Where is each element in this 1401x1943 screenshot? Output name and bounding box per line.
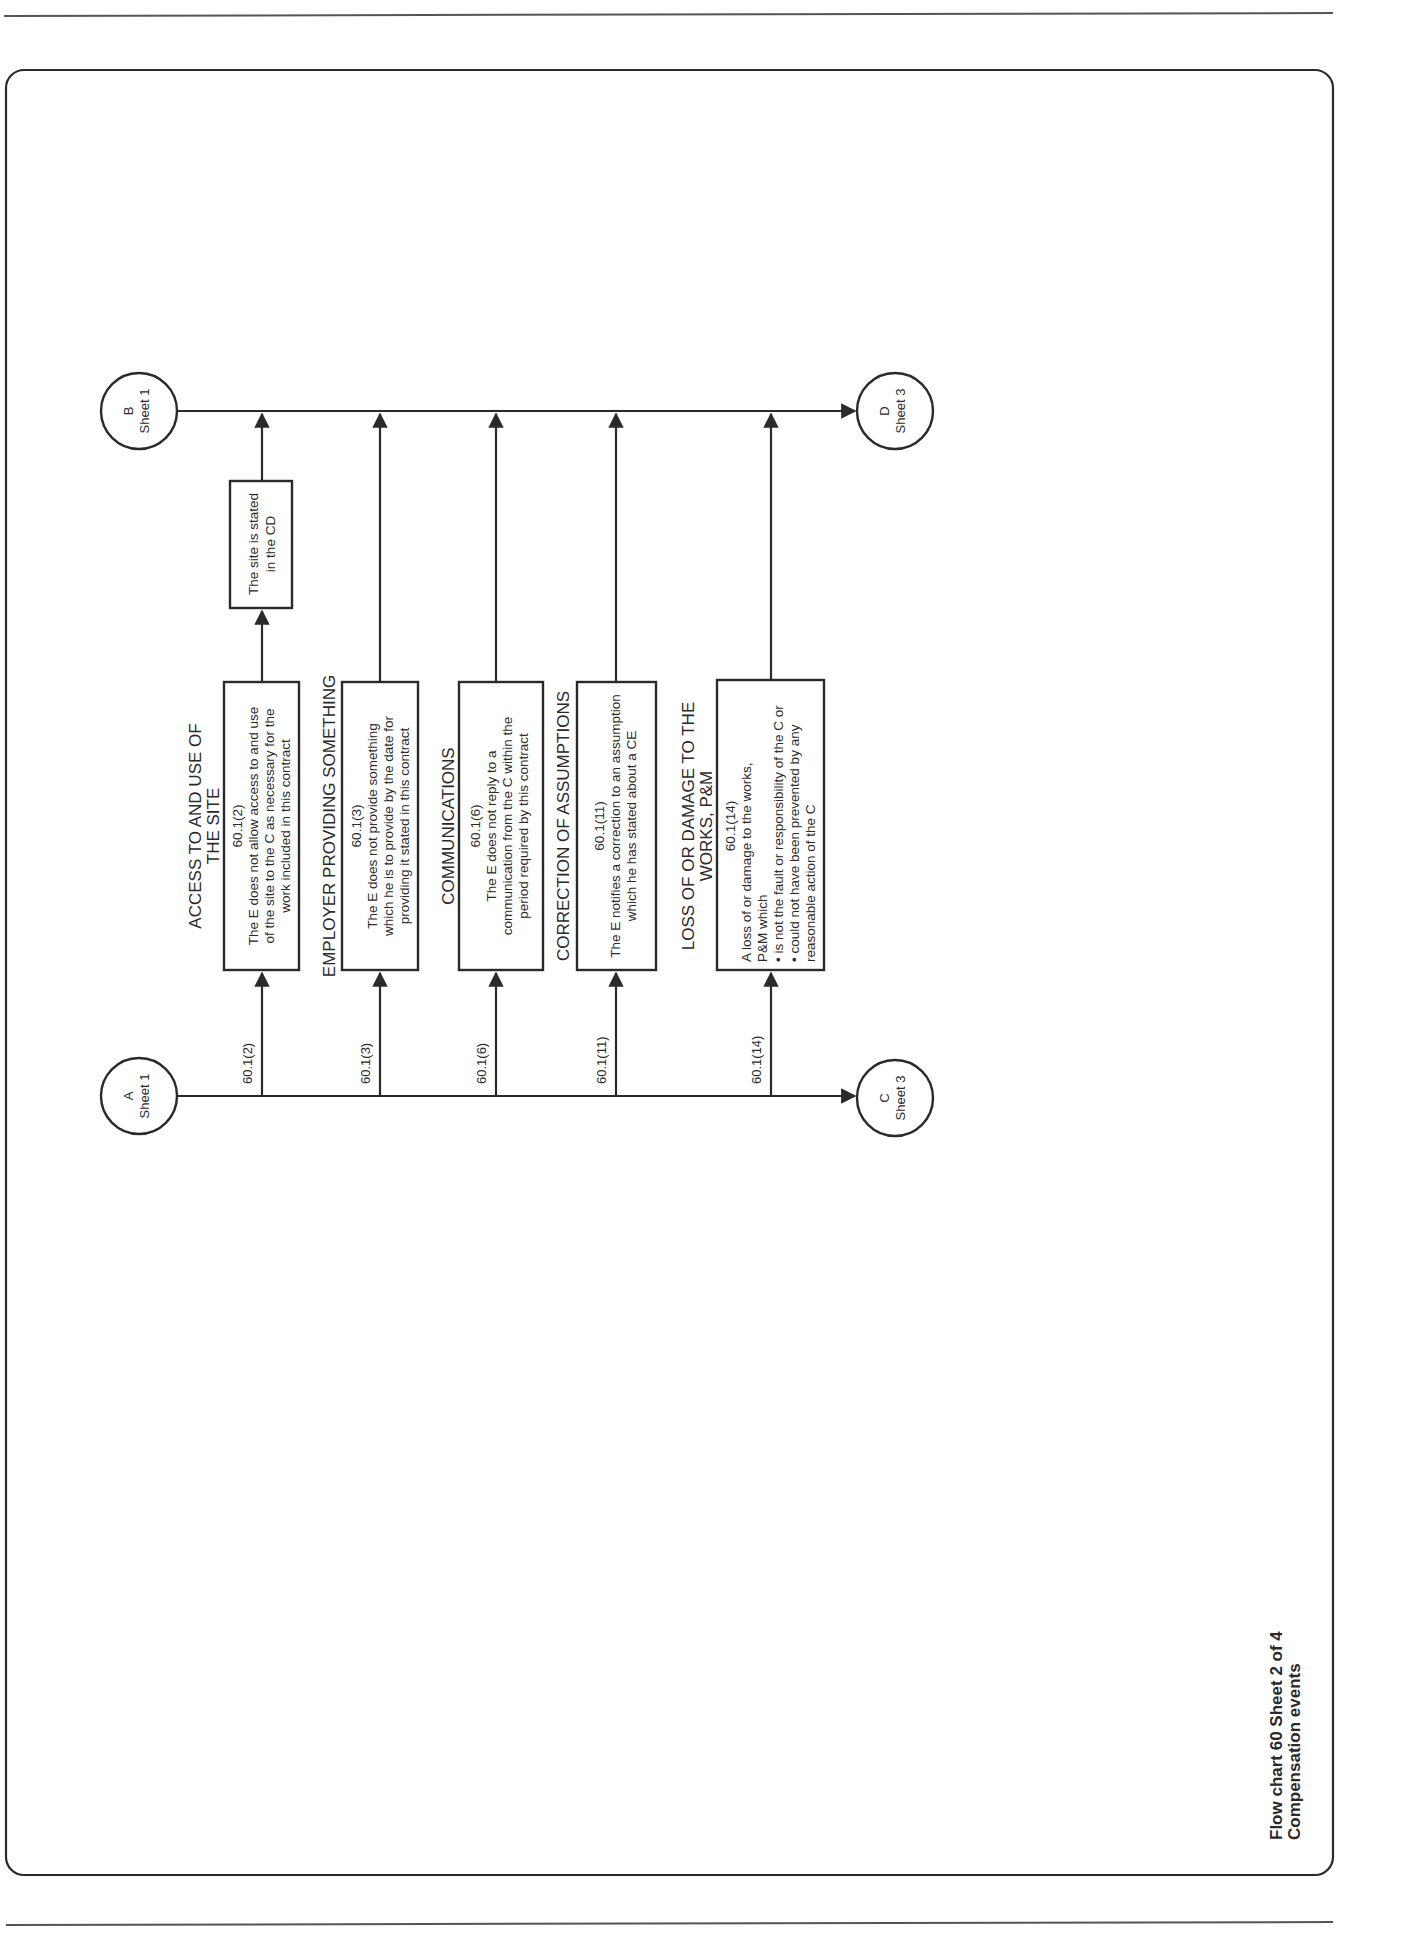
svg-text:Sheet 3: Sheet 3 bbox=[893, 1076, 908, 1121]
connector-b: B Sheet 1 bbox=[101, 373, 177, 449]
svg-text:Sheet 1: Sheet 1 bbox=[137, 1074, 152, 1119]
heading: EMPLOYER PROVIDING SOMETHING bbox=[320, 675, 339, 977]
heading: CORRECTION OF ASSUMPTIONS bbox=[554, 691, 573, 961]
heading: WORKS, P&M bbox=[697, 771, 716, 882]
event-employer-providing: EMPLOYER PROVIDING SOMETHING 60.1(3) The… bbox=[320, 675, 418, 977]
svg-text:B: B bbox=[121, 407, 136, 416]
svg-text:communication from the C withi: communication from the C within the bbox=[500, 717, 515, 935]
top-rule bbox=[4, 13, 1333, 16]
ref-label-2: 60.1(3) bbox=[358, 1043, 373, 1084]
ref-label-4: 60.1(11) bbox=[594, 1037, 609, 1084]
heading: COMMUNICATIONS bbox=[439, 747, 458, 904]
event-communications: COMMUNICATIONS 60.1(6) The E does not re… bbox=[439, 682, 543, 970]
ref-label-5: 60.1(14) bbox=[749, 1036, 764, 1084]
svg-text:D: D bbox=[877, 406, 892, 415]
svg-text:reasonable action of the C: reasonable action of the C bbox=[803, 804, 818, 962]
svg-text:work included in this contract: work included in this contract bbox=[278, 739, 293, 914]
svg-text:The E does not allow access to: The E does not allow access to and use bbox=[246, 707, 261, 946]
site-stated-box: The site is stated in the CD bbox=[230, 481, 292, 608]
svg-text:which he has stated about a CE: which he has stated about a CE bbox=[624, 731, 639, 923]
svg-text:period required by this contra: period required by this contract bbox=[516, 733, 531, 919]
connector-c: C Sheet 3 bbox=[857, 1060, 933, 1136]
event-access-to-site: ACCESS TO AND USE OF THE SITE 60.1(2) Th… bbox=[186, 682, 299, 970]
event-correction-of-assumptions: CORRECTION OF ASSUMPTIONS 60.1(11) The E… bbox=[554, 682, 656, 970]
ref-label-3: 60.1(6) bbox=[474, 1043, 489, 1084]
svg-text:60.1(2): 60.1(2) bbox=[230, 805, 245, 848]
svg-text:in the CD: in the CD bbox=[263, 516, 278, 573]
svg-text:P&M which: P&M which bbox=[755, 894, 770, 962]
svg-text:60.1(3): 60.1(3) bbox=[349, 805, 364, 848]
svg-text:The E does not reply to a: The E does not reply to a bbox=[484, 750, 499, 901]
svg-text:The E does not provide somethi: The E does not provide something bbox=[365, 723, 380, 929]
event-loss-or-damage: LOSS OF OR DAMAGE TO THE WORKS, P&M 60.1… bbox=[679, 680, 824, 970]
svg-text:A loss of or damage to the wor: A loss of or damage to the works, bbox=[739, 762, 754, 962]
svg-text:Flow chart 60 Sheet 2 of 4: Flow chart 60 Sheet 2 of 4 bbox=[1267, 1631, 1286, 1840]
heading: LOSS OF OR DAMAGE TO THE bbox=[679, 702, 698, 950]
svg-text:• could not have been prevente: • could not have been prevented by any bbox=[787, 724, 802, 962]
connector-d: D Sheet 3 bbox=[857, 373, 933, 449]
svg-text:providing it stated in this co: providing it stated in this contract bbox=[397, 727, 412, 924]
svg-text:60.1(11): 60.1(11) bbox=[592, 801, 607, 850]
ref-label-1: 60.1(2) bbox=[240, 1043, 255, 1084]
flowchart-canvas: A Sheet 1 B Sheet 1 C Sheet 3 D Sheet 3 … bbox=[0, 0, 1401, 1943]
bottom-rule bbox=[6, 1922, 1333, 1925]
svg-text:Compensation events: Compensation events bbox=[1285, 1663, 1304, 1840]
svg-text:Sheet 1: Sheet 1 bbox=[137, 389, 152, 434]
svg-text:which he is to provide by the: which he is to provide by the date for bbox=[381, 716, 396, 937]
svg-text:60.1(6): 60.1(6) bbox=[468, 805, 483, 848]
svg-text:The E notifies a correction to: The E notifies a correction to an assump… bbox=[608, 694, 623, 957]
heading: THE SITE bbox=[204, 788, 223, 865]
svg-text:Sheet 3: Sheet 3 bbox=[893, 389, 908, 434]
page-title: Flow chart 60 Sheet 2 of 4 Compensation … bbox=[1267, 1631, 1304, 1840]
svg-text:• is not the fault or responsi: • is not the fault or responsibility of … bbox=[771, 705, 786, 962]
svg-text:of the site to the C as necess: of the site to the C as necessary for th… bbox=[262, 709, 277, 944]
connector-a: A Sheet 1 bbox=[101, 1058, 177, 1134]
heading: ACCESS TO AND USE OF bbox=[186, 723, 205, 928]
svg-text:The site is stated: The site is stated bbox=[246, 493, 261, 595]
svg-text:C: C bbox=[877, 1093, 892, 1102]
svg-text:A: A bbox=[121, 1091, 136, 1100]
page-frame bbox=[6, 70, 1333, 1875]
svg-text:60.1(14): 60.1(14) bbox=[723, 801, 738, 851]
